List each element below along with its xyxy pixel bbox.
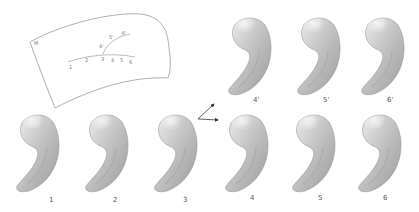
shape-1 xyxy=(13,112,63,194)
manifold-surface xyxy=(0,0,200,110)
curve-point-5: 5 xyxy=(120,57,123,63)
curve-point-4: 4 xyxy=(111,57,114,63)
branch-point-5p: 5' xyxy=(109,34,114,40)
curve-point-3: 3 xyxy=(101,56,104,62)
curve-point-2: 2 xyxy=(85,57,88,63)
figure: M 1 2 3 4 5 6 4' 5' 6' 4' 5' xyxy=(0,0,419,212)
label-6-prime: 6' xyxy=(387,96,393,104)
label-6: 6 xyxy=(383,194,387,202)
branch-point-6p: 6' xyxy=(122,30,127,36)
shape-2 xyxy=(82,112,132,194)
shape-5-prime xyxy=(294,15,344,97)
shape-4-prime xyxy=(225,15,275,97)
shape-6-prime xyxy=(358,15,408,97)
branch-point-4p: 4' xyxy=(99,43,104,49)
label-5-prime: 5' xyxy=(323,96,329,104)
shape-6 xyxy=(355,112,405,194)
label-2: 2 xyxy=(113,196,117,204)
label-4: 4 xyxy=(250,194,254,202)
curve-point-1: 1 xyxy=(69,64,72,70)
manifold-label: M xyxy=(34,40,38,46)
label-3: 3 xyxy=(183,196,187,204)
branch-arrows xyxy=(190,100,230,130)
label-4-prime: 4' xyxy=(253,96,259,104)
label-1: 1 xyxy=(49,196,53,204)
shape-5 xyxy=(289,112,339,194)
curve-point-6: 6 xyxy=(129,59,132,65)
label-5: 5 xyxy=(318,194,322,202)
